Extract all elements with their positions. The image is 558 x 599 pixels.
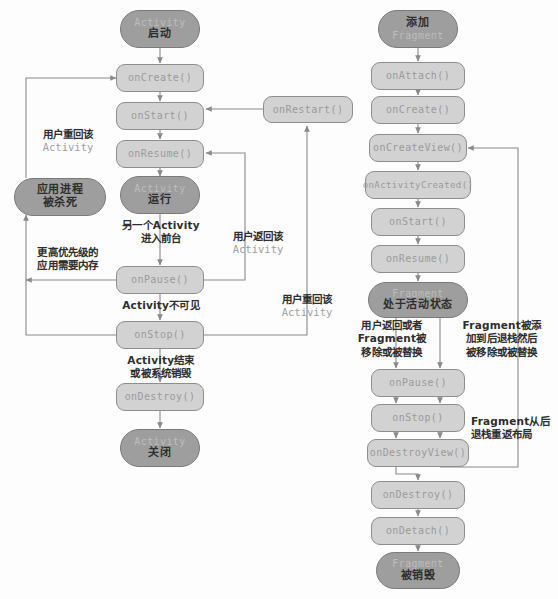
label-another-activity-foreground: 另一个Activity 进入前台: [108, 219, 214, 246]
node-activity-ondestroy[interactable]: onDestroy(): [116, 383, 204, 411]
label-line: Activity结束: [106, 354, 216, 367]
label-activity-invisible: Activity不可见: [108, 299, 214, 312]
label-line: 更高优先级的: [18, 246, 118, 259]
node-fragment-onactivitycreated-label: onActivityCreated(): [363, 180, 474, 191]
label-activity-finished-or-destroyed: Activity结束 或被系统销毁: [106, 354, 216, 381]
label-line: Fragment被添: [446, 319, 558, 332]
node-process-killed-line2: 被杀死: [43, 197, 78, 210]
label-fragment-added-to-backstack: Fragment被添 加到后退栈然后 被移除或被替换: [446, 319, 558, 359]
node-activity-onstop[interactable]: onStop(): [116, 321, 204, 349]
node-fragment-oncreateview[interactable]: onCreateView(): [369, 134, 467, 162]
node-fragment-onresume-label: onResume(): [386, 253, 450, 265]
node-activity-running[interactable]: Activity 运行: [120, 176, 200, 214]
node-fragment-onstop[interactable]: onStop(): [371, 404, 465, 432]
label-line: 退栈重返布局: [471, 428, 557, 441]
label-line: 或被系统销毁: [106, 367, 216, 380]
node-activity-onrestart-label: onRestart(): [273, 104, 344, 116]
label-higher-priority-memory: 更高优先级的 应用需要内存: [18, 246, 118, 273]
node-activity-closed-cn: 关闭: [148, 447, 171, 460]
label-fragment-returns-from-backstack: Fragment从后 退栈重返布局: [471, 415, 557, 442]
node-activity-onpause-label: onPause(): [131, 274, 189, 286]
node-fragment-onstop-label: onStop(): [392, 412, 443, 424]
label-line: Activity: [215, 243, 301, 256]
node-activity-onpause[interactable]: onPause(): [116, 266, 204, 294]
node-fragment-onactivitycreated[interactable]: onActivityCreated(): [365, 171, 471, 199]
node-fragment-onresume[interactable]: onResume(): [371, 245, 465, 273]
label-line: 用户重回该: [262, 293, 352, 306]
node-fragment-oncreate[interactable]: onCreate(): [371, 96, 465, 124]
label-line: 用户返回或者: [340, 319, 444, 332]
node-activity-closed[interactable]: Activity 关闭: [120, 429, 200, 467]
node-fragment-onstart[interactable]: onStart(): [371, 208, 465, 236]
node-fragment-add-mono: Fragment: [392, 30, 443, 42]
label-line: 用户重回该: [22, 128, 114, 141]
label-user-back-to-activity-resume: 用户返回该 Activity: [215, 230, 301, 257]
label-line: 用户返回该: [215, 230, 301, 243]
node-fragment-ondestroyview[interactable]: onDestroyView(): [367, 439, 469, 467]
node-activity-onresume-label: onResume(): [128, 148, 192, 160]
node-activity-oncreate-label: onCreate(): [128, 72, 192, 84]
node-fragment-ondetach-label: onDetach(): [386, 525, 450, 537]
node-fragment-onattach-label: onAttach(): [386, 70, 450, 82]
node-activity-onresume[interactable]: onResume(): [116, 140, 204, 168]
lifecycle-flowchart: Activity 启动 onCreate() onStart() onResum…: [0, 0, 558, 599]
node-activity-start[interactable]: Activity 启动: [120, 10, 200, 48]
node-fragment-onpause-label: onPause(): [389, 377, 447, 389]
label-line: Activity: [22, 141, 114, 154]
label-line: Fragment被: [340, 332, 444, 345]
node-fragment-ondestroy[interactable]: onDestroy(): [371, 481, 465, 509]
label-line: 被移除或被替换: [446, 346, 558, 359]
node-fragment-active-cn: 处于活动状态: [383, 299, 453, 312]
label-line: 另一个Activity: [108, 219, 214, 232]
node-fragment-ondestroy-label: onDestroy(): [383, 489, 454, 501]
node-process-killed[interactable]: 应用进程 被杀死: [14, 178, 106, 216]
node-fragment-ondestroyview-label: onDestroyView(): [370, 447, 466, 459]
node-fragment-oncreate-label: onCreate(): [386, 104, 450, 116]
node-fragment-onstart-label: onStart(): [389, 216, 447, 228]
label-line: Fragment从后: [471, 415, 557, 428]
node-activity-ondestroy-label: onDestroy(): [125, 391, 196, 403]
node-fragment-oncreateview-label: onCreateView(): [373, 142, 463, 154]
node-fragment-add-cn: 添加: [406, 17, 429, 30]
node-fragment-onattach[interactable]: onAttach(): [371, 62, 465, 90]
node-fragment-destroyed-cn: 被销毁: [401, 570, 436, 583]
label-line: Activity: [262, 306, 352, 319]
node-activity-onstart-label: onStart(): [131, 110, 189, 122]
node-fragment-add[interactable]: 添加 Fragment: [378, 10, 458, 48]
node-fragment-active[interactable]: Fragment 处于活动状态: [368, 282, 468, 318]
node-activity-onstop-label: onStop(): [134, 329, 185, 341]
label-line: 进入前台: [108, 232, 214, 245]
label-user-back-or-fragment-removed: 用户返回或者 Fragment被 移除或被替换: [340, 319, 444, 359]
label-line: Activity不可见: [108, 299, 214, 312]
node-fragment-destroyed[interactable]: Fragment 被销毁: [376, 552, 460, 589]
node-activity-onrestart[interactable]: onRestart(): [263, 96, 353, 123]
node-activity-onstart[interactable]: onStart(): [116, 102, 204, 130]
label-line: 应用需要内存: [18, 259, 118, 272]
label-user-back-to-activity-restart: 用户重回该 Activity: [262, 293, 352, 320]
node-fragment-onpause[interactable]: onPause(): [371, 369, 465, 397]
label-line: 移除或被替换: [340, 346, 444, 359]
node-fragment-ondetach[interactable]: onDetach(): [371, 517, 465, 545]
node-activity-running-cn: 运行: [148, 194, 171, 207]
label-user-return-to-activity-create: 用户重回该 Activity: [22, 128, 114, 155]
label-line: 加到后退栈然后: [446, 332, 558, 345]
node-activity-oncreate[interactable]: onCreate(): [116, 64, 204, 92]
node-activity-start-cn: 启动: [148, 28, 171, 41]
